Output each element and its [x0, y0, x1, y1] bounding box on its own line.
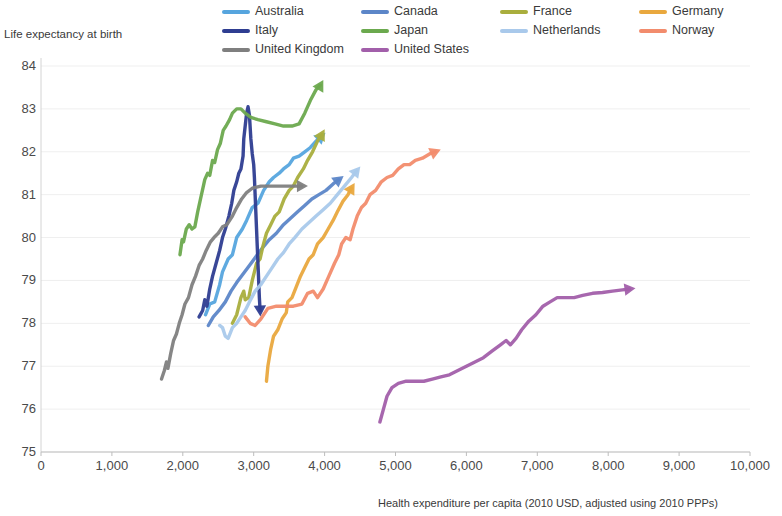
legend-swatch-icon [222, 29, 250, 33]
x-tick-label: 5,000 [379, 458, 412, 473]
y-tick-label: 84 [2, 58, 36, 73]
series-line-united-states [380, 289, 630, 422]
y-tick-label: 75 [2, 444, 36, 459]
x-tick-label: 7,000 [521, 458, 554, 473]
legend-item-label: United States [394, 43, 469, 56]
x-tick-label: 6,000 [450, 458, 483, 473]
legend-item-japan[interactable]: Japan [361, 21, 500, 40]
legend-item-netherlands[interactable]: Netherlands [500, 21, 639, 40]
y-axis-tick-labels: 84838281807978777675 [0, 0, 36, 516]
legend-item-united-states[interactable]: United States [361, 40, 500, 59]
y-tick-label: 77 [2, 358, 36, 373]
legend-item-label: Italy [255, 24, 278, 37]
legend-item-canada[interactable]: Canada [361, 2, 500, 21]
life-expectancy-vs-health-expenditure-chart: AustraliaCanadaFranceGermanyItalyJapanNe… [0, 0, 782, 516]
legend-swatch-icon [222, 10, 250, 14]
x-tick-label: 4,000 [308, 458, 341, 473]
legend-swatch-icon [361, 48, 389, 52]
y-tick-label: 83 [2, 101, 36, 116]
x-tick-label: 0 [37, 458, 44, 473]
y-tick-label: 81 [2, 187, 36, 202]
x-tick-label: 8,000 [592, 458, 625, 473]
legend-item-label: Japan [394, 24, 428, 37]
x-tick-label: 9,000 [663, 458, 696, 473]
plot-area [0, 0, 782, 516]
legend-item-norway[interactable]: Norway [639, 21, 778, 40]
y-tick-label: 76 [2, 401, 36, 416]
legend-item-label: Norway [672, 24, 714, 37]
y-tick-label: 79 [2, 272, 36, 287]
legend-item-label: Australia [255, 5, 304, 18]
legend-item-australia[interactable]: Australia [222, 2, 361, 21]
x-tick-label: 10,000 [730, 458, 770, 473]
legend-swatch-icon [639, 10, 667, 14]
legend-swatch-icon [222, 48, 250, 52]
series-arrowhead-united-states [624, 283, 636, 295]
x-tick-label: 1,000 [96, 458, 129, 473]
x-tick-label: 2,000 [167, 458, 200, 473]
series-line-canada [208, 180, 338, 326]
legend-swatch-icon [361, 10, 389, 14]
series-line-germany [266, 188, 351, 381]
x-tick-label: 3,000 [237, 458, 270, 473]
legend-item-france[interactable]: France [500, 2, 639, 21]
y-tick-label: 82 [2, 144, 36, 159]
series-arrowhead-united-kingdom [297, 180, 308, 192]
legend-item-germany[interactable]: Germany [639, 2, 778, 21]
legend-swatch-icon [500, 29, 528, 33]
series-line-united-kingdom [162, 186, 302, 379]
legend-item-label: Netherlands [533, 24, 600, 37]
legend-item-label: Canada [394, 5, 438, 18]
legend-item-italy[interactable]: Italy [222, 21, 361, 40]
legend-item-united-kingdom[interactable]: United Kingdom [222, 40, 361, 59]
series-line-netherlands [220, 171, 357, 338]
legend-item-label: United Kingdom [255, 43, 344, 56]
legend-swatch-icon [639, 29, 667, 33]
legend-item-label: Germany [672, 5, 723, 18]
y-tick-label: 80 [2, 230, 36, 245]
legend-swatch-icon [361, 29, 389, 33]
chart-legend: AustraliaCanadaFranceGermanyItalyJapanNe… [222, 2, 778, 46]
y-tick-label: 78 [2, 315, 36, 330]
x-axis-title: Health expenditure per capita (2010 USD,… [378, 497, 718, 509]
legend-swatch-icon [500, 10, 528, 14]
legend-item-label: France [533, 5, 572, 18]
